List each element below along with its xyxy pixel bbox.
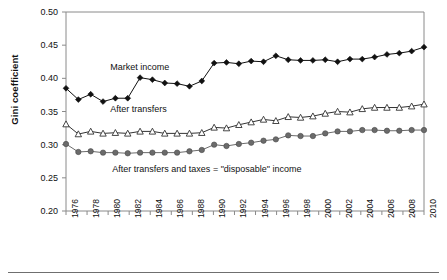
data-point-marker bbox=[187, 83, 193, 89]
data-point-marker bbox=[162, 80, 168, 86]
data-point-marker bbox=[421, 44, 427, 50]
data-point-marker bbox=[125, 95, 131, 101]
series-line-0 bbox=[66, 47, 424, 101]
data-point-marker bbox=[323, 131, 328, 136]
data-point-marker bbox=[310, 133, 315, 138]
data-point-marker bbox=[273, 53, 279, 59]
data-point-marker bbox=[199, 147, 204, 152]
series-annotation-0: Market income bbox=[110, 62, 169, 72]
data-point-marker bbox=[384, 128, 389, 133]
footer-divider bbox=[8, 272, 439, 273]
data-point-marker bbox=[347, 56, 353, 62]
data-point-marker bbox=[372, 127, 377, 132]
plot-area bbox=[0, 0, 447, 280]
data-point-marker bbox=[298, 133, 303, 138]
data-point-marker bbox=[322, 57, 328, 63]
x-axis-tick-label: 1976 bbox=[70, 199, 80, 218]
x-axis-tick-label: 1984 bbox=[154, 199, 164, 218]
data-point-marker bbox=[261, 59, 267, 65]
gini-coefficient-chart: Gini coefficient 0.500.450.400.350.300.2… bbox=[0, 0, 447, 280]
series-annotation-2: After transfers and taxes = "disposable"… bbox=[112, 164, 301, 174]
x-axis-tick-label: 1978 bbox=[91, 199, 101, 218]
data-point-marker bbox=[310, 58, 316, 64]
data-point-marker bbox=[360, 127, 365, 132]
data-point-marker bbox=[100, 99, 106, 105]
data-point-marker bbox=[396, 50, 402, 56]
x-axis-tick-label: 2006 bbox=[386, 199, 396, 218]
series-annotation-1: After transfers bbox=[110, 104, 167, 114]
x-axis-tick-label: 1992 bbox=[238, 199, 248, 218]
data-point-marker bbox=[150, 150, 155, 155]
data-point-marker bbox=[137, 75, 143, 81]
x-axis-tick-label: 1982 bbox=[133, 199, 143, 218]
data-point-marker bbox=[285, 57, 291, 63]
data-point-marker bbox=[335, 129, 340, 134]
x-axis-tick-label: 1986 bbox=[175, 199, 185, 218]
series-line-2 bbox=[66, 130, 424, 153]
data-point-marker bbox=[236, 141, 241, 146]
data-point-marker bbox=[372, 54, 378, 60]
x-axis-tick-label: 1998 bbox=[302, 199, 312, 218]
data-point-marker bbox=[224, 60, 230, 66]
data-point-marker bbox=[335, 59, 341, 65]
data-point-marker bbox=[261, 138, 266, 143]
data-point-marker bbox=[273, 137, 278, 142]
data-point-marker bbox=[211, 60, 217, 66]
data-point-marker bbox=[298, 58, 304, 64]
data-point-marker bbox=[224, 143, 229, 148]
data-point-marker bbox=[174, 81, 180, 87]
data-point-marker bbox=[359, 56, 365, 62]
data-point-marker bbox=[100, 150, 105, 155]
data-point-marker bbox=[187, 149, 192, 154]
x-axis-tick-label: 1990 bbox=[217, 199, 227, 218]
data-point-marker bbox=[286, 133, 291, 138]
data-point-marker bbox=[87, 128, 93, 134]
x-axis-tick-label: 2000 bbox=[323, 199, 333, 218]
data-point-marker bbox=[174, 150, 179, 155]
data-point-marker bbox=[347, 129, 352, 134]
data-point-marker bbox=[88, 91, 94, 97]
data-point-marker bbox=[409, 127, 414, 132]
data-point-marker bbox=[421, 127, 426, 132]
data-point-marker bbox=[236, 61, 242, 67]
x-axis-tick-label: 2010 bbox=[428, 199, 438, 218]
data-point-marker bbox=[88, 149, 93, 154]
data-point-marker bbox=[421, 101, 427, 107]
x-axis-tick-label: 2004 bbox=[365, 199, 375, 218]
data-point-marker bbox=[150, 77, 156, 83]
data-point-marker bbox=[211, 142, 216, 147]
data-point-marker bbox=[384, 52, 390, 58]
x-axis-tick-label: 2008 bbox=[407, 199, 417, 218]
data-point-marker bbox=[137, 150, 142, 155]
x-axis-tick-label: 1996 bbox=[281, 199, 291, 218]
data-point-marker bbox=[248, 140, 253, 145]
data-point-marker bbox=[199, 78, 205, 84]
data-point-marker bbox=[248, 58, 254, 64]
data-point-marker bbox=[76, 149, 81, 154]
data-point-marker bbox=[409, 48, 415, 54]
x-axis-tick-label: 2002 bbox=[344, 199, 354, 218]
data-point-marker bbox=[125, 151, 130, 156]
data-point-marker bbox=[397, 128, 402, 133]
x-axis-tick-label: 1994 bbox=[260, 199, 270, 218]
data-point-marker bbox=[162, 150, 167, 155]
data-point-marker bbox=[63, 121, 69, 127]
data-point-marker bbox=[113, 150, 118, 155]
data-point-marker bbox=[112, 95, 118, 101]
x-axis-tick-label: 1980 bbox=[112, 199, 122, 218]
data-point-marker bbox=[63, 141, 68, 146]
x-axis-tick-label: 1988 bbox=[196, 199, 206, 218]
